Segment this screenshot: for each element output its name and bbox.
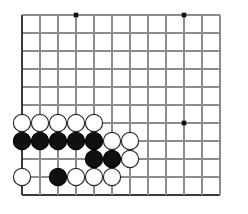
board-grid bbox=[22, 15, 220, 195]
white-stone[interactable] bbox=[103, 168, 120, 185]
black-stone[interactable] bbox=[31, 132, 48, 149]
black-stone[interactable] bbox=[103, 150, 120, 167]
white-stone[interactable] bbox=[121, 150, 138, 167]
black-stone[interactable] bbox=[67, 132, 84, 149]
white-stone[interactable] bbox=[85, 114, 102, 131]
star-point-icon bbox=[182, 121, 187, 126]
white-stone[interactable] bbox=[103, 132, 120, 149]
black-stone[interactable] bbox=[49, 168, 66, 185]
black-stone[interactable] bbox=[13, 132, 30, 149]
white-stone[interactable] bbox=[31, 114, 48, 131]
white-stone[interactable] bbox=[121, 132, 138, 149]
white-stone[interactable] bbox=[13, 168, 30, 185]
black-stone[interactable] bbox=[49, 132, 66, 149]
white-stone[interactable] bbox=[67, 168, 84, 185]
white-stone[interactable] bbox=[67, 114, 84, 131]
black-stone[interactable] bbox=[85, 132, 102, 149]
star-point-icon bbox=[74, 13, 79, 18]
white-stone[interactable] bbox=[49, 114, 66, 131]
go-board-diagram bbox=[0, 0, 248, 214]
go-board-canvas[interactable] bbox=[0, 0, 248, 214]
white-stone[interactable] bbox=[13, 114, 30, 131]
white-stone[interactable] bbox=[85, 168, 102, 185]
stones-layer[interactable] bbox=[13, 114, 138, 185]
star-point-icon bbox=[182, 13, 187, 18]
black-stone[interactable] bbox=[85, 150, 102, 167]
